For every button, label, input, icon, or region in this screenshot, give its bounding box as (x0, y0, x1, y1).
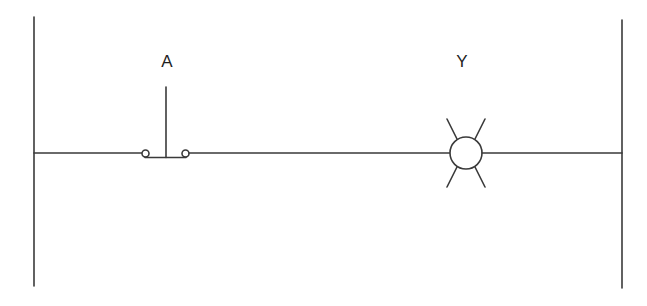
ladder-diagram (0, 0, 647, 306)
lamp-y-label: Y (456, 53, 467, 70)
pushbutton-a-icon (142, 87, 189, 158)
lamp-y-icon (447, 119, 485, 187)
pushbutton-a-label: A (161, 53, 172, 70)
